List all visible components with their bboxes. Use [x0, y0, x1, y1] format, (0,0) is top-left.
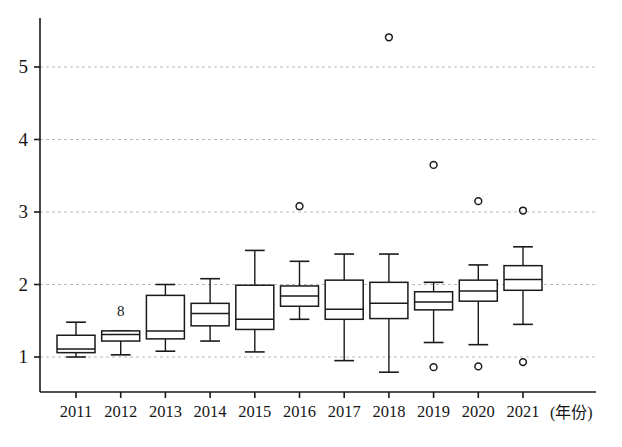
outlier-marker-2021: [520, 207, 527, 214]
box-body: [191, 303, 229, 325]
axis-ticks: [34, 67, 523, 398]
y-tick-label: 5: [6, 57, 28, 76]
box-plot-2017: [325, 254, 363, 361]
box-plot-2019: [415, 282, 453, 342]
outlier-marker-2021: [520, 359, 527, 366]
outlier-marker-2019: [430, 364, 437, 371]
outlier-marker-2020: [475, 363, 482, 370]
y-tick-label: 3: [6, 202, 28, 221]
box-body: [415, 292, 453, 310]
outlier-marker-2018: [386, 34, 393, 41]
box-plot-2020: [459, 265, 497, 345]
box-plot-2016: [281, 261, 319, 319]
plot-area: [0, 0, 622, 447]
outlier-marker-2020: [475, 198, 482, 205]
box-plot-chart: 12345 2011201220132014201520162017201820…: [0, 0, 622, 447]
x-tick-label-2021: 2021: [493, 404, 553, 421]
y-tick-label: 2: [6, 275, 28, 294]
annotation-label: 8: [101, 304, 141, 319]
box-plot-2015: [236, 250, 274, 351]
x-axis-unit-label: (年份): [550, 405, 593, 421]
box-body: [504, 266, 542, 291]
box-plot-2014: [191, 279, 229, 341]
box-plot-2011: [57, 322, 95, 357]
box-plot-2018: [370, 254, 408, 372]
box-plot-2021: [504, 247, 542, 325]
box-body: [370, 282, 408, 318]
outlier-marker-2016: [296, 203, 303, 210]
box-plot-2012: [102, 331, 140, 355]
outlier-marker-2019: [430, 161, 437, 168]
box-body: [146, 295, 184, 339]
box-body: [57, 335, 95, 352]
box-plot-2013: [146, 285, 184, 352]
box-body: [102, 331, 140, 341]
box-body: [325, 280, 363, 319]
y-tick-label: 1: [6, 347, 28, 366]
box-body: [236, 285, 274, 329]
y-tick-label: 4: [6, 130, 28, 149]
